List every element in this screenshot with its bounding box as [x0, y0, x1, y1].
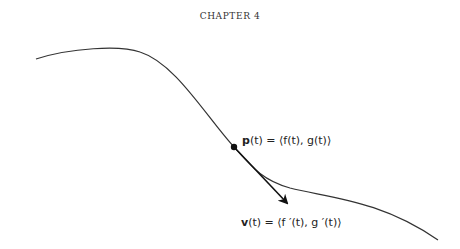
velocity-label: v(t) = ⟨f ′(t), g ′(t)⟩ [241, 216, 342, 229]
velocity-label-text: (t) = ⟨f ′(t), g ′(t)⟩ [248, 216, 341, 229]
point-label-symbol: p [242, 134, 250, 147]
curve-figure [0, 0, 460, 249]
point-marker [231, 144, 237, 150]
velocity-vector-arrow [234, 147, 287, 203]
parametric-curve [36, 48, 438, 240]
point-label-text: (t) = ⟨f(t), g(t)⟩ [250, 134, 331, 147]
point-label: p(t) = ⟨f(t), g(t)⟩ [242, 134, 331, 147]
